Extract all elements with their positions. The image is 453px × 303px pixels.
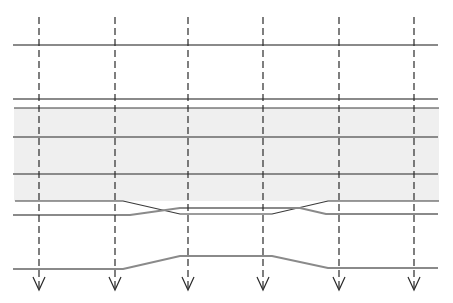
- bottom-bulge-gray: [13, 256, 438, 269]
- converging-lines: [13, 201, 439, 269]
- flow-diagram: [0, 0, 453, 303]
- diagram-canvas: [0, 0, 453, 303]
- shaded-band: [14, 108, 439, 201]
